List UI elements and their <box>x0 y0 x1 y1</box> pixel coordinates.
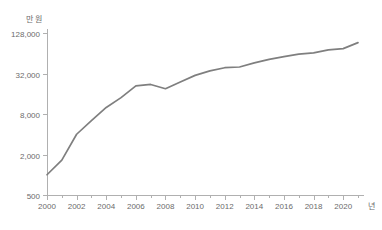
x-tick-label: 2012 <box>216 202 234 211</box>
chart-container: 만 원 5002,0008,00032,000128,000 200020022… <box>0 0 382 230</box>
x-axis: 2000200220042006200820102012201420162018… <box>38 196 364 211</box>
x-tick-label: 2020 <box>334 202 352 211</box>
x-tick-label: 2010 <box>186 202 204 211</box>
x-tick-label: 2006 <box>127 202 145 211</box>
x-tick-label: 2004 <box>97 202 115 211</box>
y-tick-label: 128,000 <box>11 30 40 39</box>
y-axis: 5002,0008,00032,000128,000 <box>11 29 47 201</box>
y-tick-label: 8,000 <box>20 111 41 120</box>
x-tick-label: 2016 <box>275 202 293 211</box>
y-tick-label: 2,000 <box>20 152 41 161</box>
y-tick-label: 500 <box>27 192 41 201</box>
x-tick-label: 2018 <box>305 202 323 211</box>
x-tick-label: 2008 <box>157 202 175 211</box>
x-axis-unit-label: 년 <box>368 201 375 211</box>
y-axis-unit-label: 만 원 <box>26 15 42 24</box>
y-tick-label: 32,000 <box>16 71 41 80</box>
data-line-1 <box>47 43 358 175</box>
x-tick-label: 2002 <box>68 202 86 211</box>
line-chart: 만 원 5002,0008,00032,000128,000 200020022… <box>0 0 382 230</box>
x-tick-label: 2014 <box>245 202 263 211</box>
data-series-group <box>47 43 358 175</box>
x-tick-label: 2000 <box>38 202 56 211</box>
